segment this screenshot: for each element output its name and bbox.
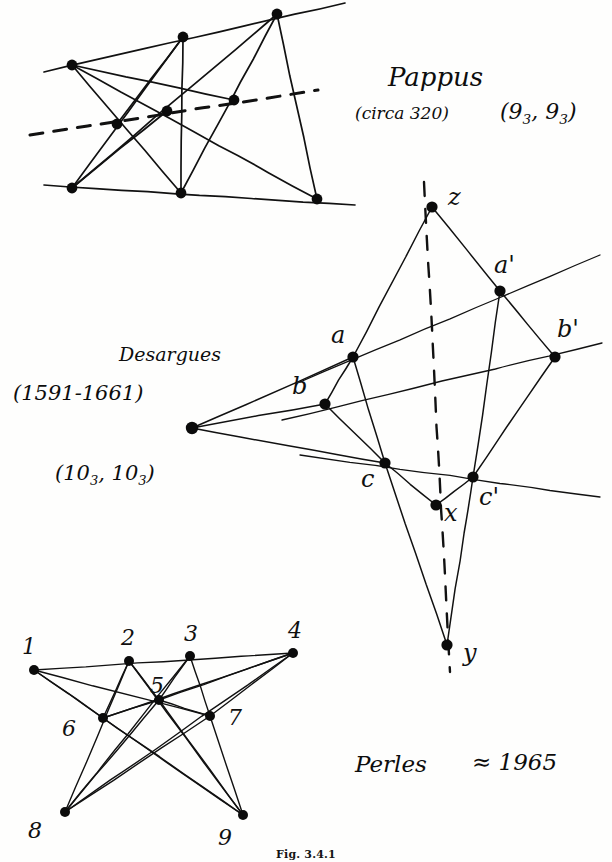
perles-line-21 — [210, 716, 243, 815]
desargues-notation-mid: , 10 — [98, 461, 138, 485]
pappus-line-0 — [44, 3, 345, 72]
pappus-dashed-line — [30, 90, 318, 135]
pappus-point-p2 — [178, 32, 189, 43]
perles-point-9 — [238, 810, 248, 820]
desargues-notation: (103, 103) — [55, 462, 155, 488]
desargues-point-x — [430, 499, 441, 510]
pappus-point-p4 — [112, 119, 123, 130]
pappus-line-5 — [181, 37, 183, 193]
desargues-label-c: c — [361, 467, 374, 491]
perles-date: ≈ 1965 — [472, 750, 557, 774]
pappus-point-p5 — [162, 106, 173, 117]
desargues-notation-suffix: ) — [147, 461, 155, 485]
desargues-line-6 — [473, 291, 500, 477]
desargues-configuration — [186, 182, 602, 672]
perles-point-1 — [29, 665, 39, 675]
desargues-line-3 — [500, 291, 555, 357]
desargues-point-cp — [467, 471, 478, 482]
pappus-notation-sub1: 3 — [523, 111, 532, 127]
desargues-title: Desargues — [119, 345, 221, 365]
pappus-notation-suffix: ) — [568, 99, 577, 124]
pappus-point-p8 — [176, 188, 187, 199]
desargues-point-z — [426, 201, 437, 212]
pappus-point-p6 — [229, 95, 240, 106]
pappus-notation-sub2: 3 — [559, 111, 568, 127]
perles-point-2 — [124, 656, 134, 666]
desargues-line-12 — [192, 357, 353, 428]
desargues-date: (1591-1661) — [13, 382, 143, 404]
perles-point-4 — [288, 648, 298, 658]
desargues-line-7 — [473, 357, 555, 477]
perles-title: Perles — [355, 752, 427, 776]
desargues-line-1 — [432, 207, 500, 291]
configurations-figure — [0, 0, 612, 862]
perles-label-6: 6 — [62, 718, 76, 740]
perles-point-3 — [185, 651, 195, 661]
perles-line-18 — [159, 700, 210, 716]
desargues-label-b: b — [292, 374, 307, 398]
perles-point-7 — [205, 711, 215, 721]
figure-caption: Fig. 3.4.1 — [0, 848, 612, 861]
desargues-line-0 — [353, 207, 432, 357]
pappus-configuration — [30, 3, 355, 205]
desargues-label-y: y — [463, 641, 477, 665]
desargues-point-y — [441, 639, 452, 650]
perles-label-3: 3 — [184, 623, 198, 645]
desargues-point-c — [379, 457, 390, 468]
desargues-point-bp — [549, 351, 560, 362]
perles-label-5: 5 — [150, 675, 164, 697]
desargues-point-a — [347, 351, 358, 362]
perles-label-2: 2 — [121, 627, 135, 649]
desargues-label-bp: b' — [557, 317, 579, 341]
perles-line-3 — [34, 670, 103, 718]
perles-line-20 — [65, 716, 210, 812]
pappus-line-10 — [117, 37, 183, 124]
perles-label-9: 9 — [218, 827, 232, 849]
desargues-point-ap — [494, 285, 505, 296]
pappus-point-p9 — [312, 194, 323, 205]
desargues-dashed-axis — [424, 182, 450, 672]
desargues-point-o — [186, 422, 198, 434]
desargues-label-ap: a' — [494, 253, 515, 277]
desargues-transversal-0 — [300, 255, 600, 382]
pappus-line-8 — [277, 14, 317, 199]
pappus-point-p1 — [67, 60, 78, 71]
pappus-notation-prefix: (9 — [500, 99, 523, 124]
desargues-label-a: a — [331, 323, 345, 347]
pappus-point-p7 — [67, 183, 78, 194]
perles-label-4: 4 — [288, 620, 302, 642]
pappus-notation-mid: , 9 — [531, 99, 559, 124]
pappus-title: Pappus — [388, 64, 483, 91]
desargues-label-z: z — [448, 185, 461, 209]
perles-label-7: 7 — [228, 707, 242, 729]
perles-label-8: 8 — [28, 820, 42, 842]
desargues-transversal-2 — [300, 455, 600, 497]
perles-line-19 — [103, 718, 243, 815]
perles-line-0 — [34, 653, 293, 670]
pappus-date: (circa 320) — [355, 105, 449, 123]
desargues-notation-prefix: (10 — [55, 461, 90, 485]
pappus-point-p3 — [272, 9, 283, 20]
desargues-line-10 — [385, 463, 447, 645]
desargues-notation-sub2: 3 — [138, 473, 146, 488]
pappus-notation: (93, 93) — [500, 100, 577, 127]
perles-label-1: 1 — [22, 636, 36, 658]
desargues-line-13 — [192, 404, 325, 428]
desargues-line-14 — [192, 428, 385, 463]
desargues-point-b — [319, 398, 330, 409]
figure-page: Pappus (circa 320) (93, 93) Desargues (1… — [0, 0, 612, 862]
desargues-label-cp: c' — [479, 485, 499, 509]
perles-point-8 — [60, 807, 70, 817]
desargues-notation-sub1: 3 — [90, 473, 98, 488]
perles-point-6 — [98, 713, 108, 723]
desargues-label-x: x — [444, 501, 458, 525]
